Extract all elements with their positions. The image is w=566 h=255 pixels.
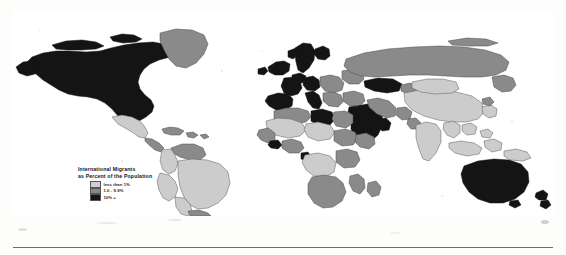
legend-swatch-dark	[90, 194, 101, 200]
legend-label-10-plus: 10% +	[103, 195, 116, 200]
legend-title-line2: as Percent of the Population	[78, 173, 152, 180]
legend-title-line1: International Migrants	[78, 166, 152, 173]
legend-swatch-mid	[90, 188, 101, 194]
scan-smudge-4	[541, 220, 549, 224]
legend-entries: less than 1% 1.0 - 9.9% 10% +	[90, 182, 152, 200]
legend-entry-less-than-1: less than 1%	[90, 182, 152, 187]
legend-label-less-than-1: less than 1%	[103, 182, 130, 187]
scanned-page: .c1{fill:#cccccc;stroke:#5a5a5a;stroke-w…	[0, 0, 566, 255]
legend-entry-10-plus: 10% +	[90, 195, 152, 200]
scan-smudge-3	[168, 219, 182, 221]
legend-entry-1-to-9: 1.0 - 9.9%	[90, 188, 152, 193]
page-horizontal-rule	[13, 247, 553, 248]
map-legend: International Migrants as Percent of the…	[78, 166, 152, 201]
legend-label-1-to-9: 1.0 - 9.9%	[103, 188, 123, 193]
legend-swatch-light	[90, 181, 101, 187]
scan-smudge-5	[390, 232, 400, 234]
scan-smudge-1	[18, 228, 27, 231]
scan-smudge-2	[96, 222, 118, 224]
